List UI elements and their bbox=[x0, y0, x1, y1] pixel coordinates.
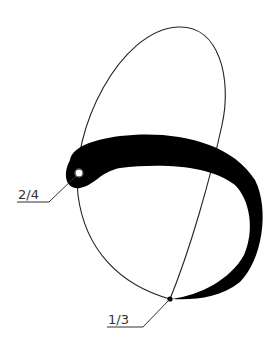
loop-diagram: 2/4 1/3 bbox=[0, 0, 278, 348]
label-1-3: 1/3 bbox=[108, 312, 129, 327]
point-2-4-marker bbox=[75, 169, 83, 177]
label-2-4: 2/4 bbox=[18, 187, 39, 202]
thick-band bbox=[66, 134, 263, 299]
